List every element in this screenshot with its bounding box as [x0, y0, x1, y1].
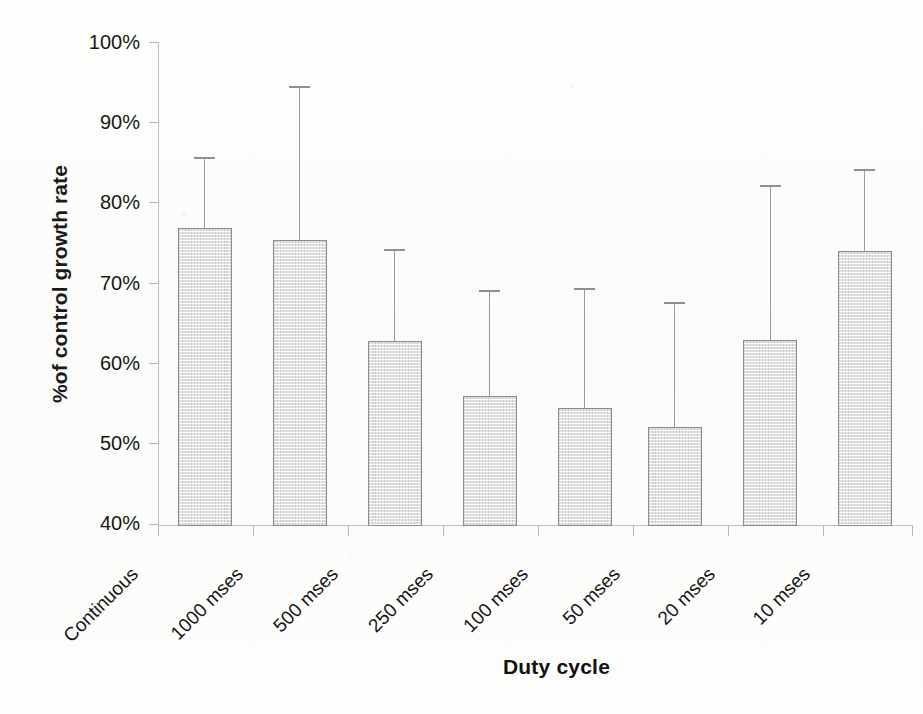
y-tick-mark-90 — [149, 122, 158, 123]
error-bar-line-5 — [674, 303, 675, 427]
y-tick-mark-40 — [149, 524, 158, 525]
x-tick-mark-1 — [253, 526, 254, 536]
y-tick-mark-100 — [149, 42, 158, 43]
error-bar-cap-0 — [194, 157, 215, 159]
bar-250-mses[interactable] — [463, 396, 517, 526]
bar-20-mses[interactable] — [743, 340, 797, 526]
y-tick-label-90: 90% — [62, 111, 140, 134]
error-bar-line-3 — [489, 291, 490, 396]
x-tick-mark-8 — [912, 526, 913, 536]
x-axis-title-wrap: Duty cycle — [0, 655, 923, 679]
x-tick-mark-6 — [728, 526, 729, 536]
x-tick-mark-3 — [443, 526, 444, 536]
error-bar-cap-1 — [289, 86, 310, 88]
y-tick-label-50: 50% — [62, 432, 140, 455]
x-tick-mark-7 — [823, 526, 824, 536]
error-bar-line-0 — [204, 158, 205, 228]
bar-1000-mses[interactable] — [273, 240, 327, 526]
y-tick-mark-80 — [149, 202, 158, 203]
error-bar-line-7 — [864, 170, 865, 251]
y-tick-label-70: 70% — [62, 272, 140, 295]
y-tick-label-60: 60% — [62, 352, 140, 375]
x-axis-title: Duty cycle — [503, 655, 610, 679]
x-tick-mark-2 — [348, 526, 349, 536]
bar-500-mses[interactable] — [368, 341, 422, 526]
y-tick-mark-50 — [149, 443, 158, 444]
error-bar-line-4 — [584, 289, 585, 408]
y-tick-mark-70 — [149, 283, 158, 284]
y-tick-mark-60 — [149, 363, 158, 364]
bar-100-mses[interactable] — [558, 408, 612, 526]
y-axis-line — [158, 42, 159, 526]
x-axis-line — [158, 525, 913, 526]
error-bar-line-1 — [299, 87, 300, 240]
x-tick-mark-5 — [633, 526, 634, 536]
bar-10-mses[interactable] — [838, 251, 892, 526]
bar-continuous[interactable] — [178, 228, 232, 526]
y-tick-label-40: 40% — [62, 512, 140, 535]
bar-50-mses[interactable] — [648, 427, 702, 526]
error-bar-line-6 — [770, 186, 771, 340]
error-bar-cap-2 — [384, 249, 405, 251]
y-tick-label-100: 100% — [62, 31, 140, 54]
y-tick-label-80: 80% — [62, 191, 140, 214]
error-bar-cap-7 — [854, 169, 875, 171]
error-bar-cap-6 — [760, 185, 781, 187]
x-tick-mark-4 — [538, 526, 539, 536]
error-bar-cap-3 — [479, 290, 500, 292]
error-bar-cap-5 — [664, 302, 685, 304]
error-bar-line-2 — [394, 250, 395, 341]
error-bar-cap-4 — [574, 288, 595, 290]
x-tick-mark-0 — [158, 526, 159, 536]
bar-chart: %of control growth rate 100% 90% 80% 70%… — [0, 0, 923, 714]
